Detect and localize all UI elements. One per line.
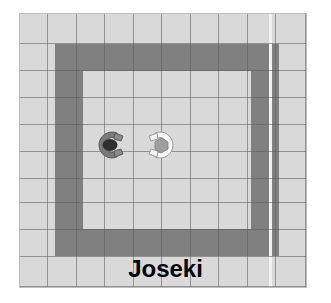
scene-label: Joseki: [0, 255, 331, 283]
robot-light[interactable]: [143, 128, 177, 162]
simulation-scene: Joseki: [0, 0, 331, 303]
gridline-vertical: [19, 13, 20, 288]
gridline-vertical: [305, 13, 306, 288]
gridline-horizontal: [19, 286, 307, 287]
robot-dark[interactable]: [95, 128, 129, 162]
gridline-horizontal: [19, 13, 307, 14]
gridline-vertical: [47, 13, 48, 288]
